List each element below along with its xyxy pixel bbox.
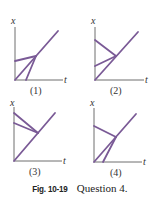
panel-2-y-label: x (90, 15, 96, 26)
panel-1-y-label: x (10, 15, 16, 26)
panel-2-label: (2) (110, 85, 122, 97)
panel-3-line-c (14, 123, 38, 133)
panel-4-y-label: x (89, 97, 95, 108)
panel-2-line-b (95, 40, 116, 56)
panel-3-label: (3) (29, 166, 41, 178)
panel-2-x-label: t (145, 74, 148, 85)
panel-4-label: (4) (110, 167, 122, 179)
figure-caption: Fig. 10-19 Question 4. (0, 182, 157, 194)
panel-1-line-c (26, 56, 36, 80)
panel-3: x t (3) (9, 97, 66, 178)
panel-4-x-label: t (143, 156, 146, 167)
figure-caption-text: Question 4. (77, 182, 128, 194)
figure-canvas: x t (1) x t (2) x t (3) x t (4) (0, 0, 157, 199)
panel-2: x t (2) (90, 15, 148, 97)
panel-1-label: (1) (30, 85, 42, 97)
figure-number: Fig. 10-19 (33, 183, 69, 194)
panel-4-line-b (94, 126, 116, 137)
panel-3-y-label: x (9, 97, 15, 108)
panel-3-line-b (14, 113, 38, 133)
panel-3-line-a (14, 113, 55, 161)
panel-4: x t (4) (89, 97, 146, 179)
panel-1-x-label: t (64, 74, 67, 85)
panel-3-x-label: t (63, 155, 66, 166)
panel-1: x t (1) (10, 15, 67, 97)
